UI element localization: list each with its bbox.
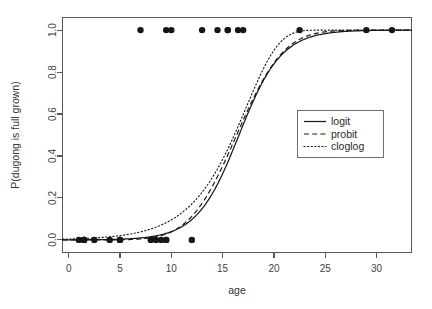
legend[interactable]: logit probit cloglog [298, 111, 384, 158]
data-point [363, 27, 369, 33]
data-point [163, 237, 169, 243]
y-tick-label: 0.4 [47, 149, 58, 163]
y-tick-label: 1.0 [47, 23, 58, 37]
data-point [199, 27, 205, 33]
data-point [81, 237, 87, 243]
x-tick-label: 10 [166, 263, 178, 274]
data-point [296, 27, 302, 33]
legend-label-logit: logit [331, 115, 350, 127]
x-axis-title: age [228, 284, 246, 296]
scatter-plot-canvas: 0.00.20.40.60.81.0 051015202530 logit pr… [0, 0, 432, 309]
y-axis-title: P(dugong is full grown) [9, 81, 21, 188]
data-point [389, 27, 395, 33]
y-tick-label: 0.0 [47, 233, 58, 247]
chart-figure: 0.00.20.40.60.81.0 051015202530 logit pr… [0, 0, 432, 309]
legend-label-cloglog: cloglog [331, 140, 364, 152]
data-point [117, 237, 123, 243]
data-point [168, 27, 174, 33]
y-tick-label: 0.6 [47, 107, 58, 121]
data-point [225, 27, 231, 33]
x-tick-label: 25 [320, 263, 332, 274]
x-tick-label: 0 [66, 263, 72, 274]
x-tick-label: 30 [371, 263, 383, 274]
data-point [240, 27, 246, 33]
data-point [107, 237, 113, 243]
data-point [91, 237, 97, 243]
data-point [189, 237, 195, 243]
y-tick-label: 0.8 [47, 65, 58, 79]
y-tick-label: 0.2 [47, 191, 58, 205]
data-point [214, 27, 220, 33]
legend-label-probit: probit [331, 128, 357, 140]
data-point [137, 27, 143, 33]
x-tick-label: 5 [117, 263, 123, 274]
x-tick-label: 15 [217, 263, 229, 274]
x-tick-label: 20 [268, 263, 280, 274]
